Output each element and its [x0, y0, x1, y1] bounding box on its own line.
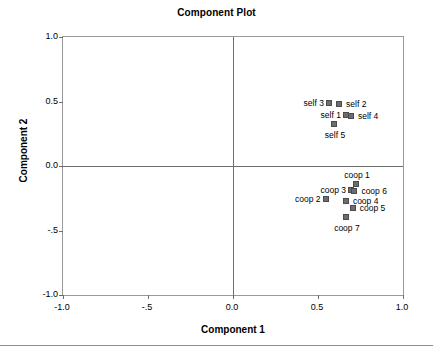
scatter-marker: [351, 188, 357, 194]
y-tick-label: 1.0: [24, 32, 58, 41]
plot-area: self 3self 2self 1self 4self 5coop 1coop…: [62, 36, 404, 296]
scatter-marker: [323, 196, 329, 202]
scatter-point-label: coop 3: [320, 186, 346, 195]
x-axis-title: Component 1: [62, 324, 404, 335]
y-tick-label: -.5: [24, 226, 58, 235]
x-tick-mark: [63, 295, 64, 299]
scatter-point-label: coop 5: [360, 204, 386, 213]
x-tick-mark: [318, 295, 319, 299]
y-tick-mark: [59, 102, 63, 103]
scatter-marker: [343, 198, 349, 204]
scatter-point-label: coop 6: [361, 187, 387, 196]
y-tick-label: -1.0: [24, 290, 58, 299]
scatter-point-label: self 4: [358, 112, 378, 121]
footer-divider: [0, 345, 433, 346]
x-tick-mark: [233, 295, 234, 299]
y-tick-mark: [59, 166, 63, 167]
y-axis-title: Component 2: [18, 81, 29, 221]
page-title: Component Plot: [0, 7, 433, 18]
y-tick-mark: [59, 231, 63, 232]
scatter-point-label: self 3: [304, 99, 324, 108]
component-plot-figure: Component Plot -1.0-.50.00.51.0 -1.0-.50…: [0, 0, 433, 358]
zero-line-vertical: [233, 37, 234, 295]
scatter-marker: [343, 214, 349, 220]
scatter-point-label: coop 7: [334, 224, 360, 233]
scatter-point-label: coop 2: [295, 195, 321, 204]
scatter-marker: [326, 100, 332, 106]
scatter-point-label: coop 1: [344, 171, 370, 180]
x-tick-label: -1.0: [42, 303, 82, 312]
scatter-marker: [348, 113, 354, 119]
x-tick-label: -.5: [127, 303, 167, 312]
x-axis-tick-labels: -1.0-.50.00.51.0: [62, 303, 404, 317]
scatter-marker: [331, 121, 337, 127]
y-tick-label: 0.5: [24, 97, 58, 106]
scatter-point-label: self 1: [321, 111, 341, 120]
x-tick-label: 1.0: [382, 303, 422, 312]
scatter-point-label: self 2: [346, 100, 366, 109]
x-tick-mark: [148, 295, 149, 299]
scatter-marker: [336, 101, 342, 107]
x-tick-mark: [403, 295, 404, 299]
x-tick-label: 0.5: [297, 303, 337, 312]
y-tick-mark: [59, 37, 63, 38]
y-tick-label: 0.0: [24, 161, 58, 170]
x-tick-label: 0.0: [212, 303, 252, 312]
scatter-point-label: self 5: [325, 131, 345, 140]
